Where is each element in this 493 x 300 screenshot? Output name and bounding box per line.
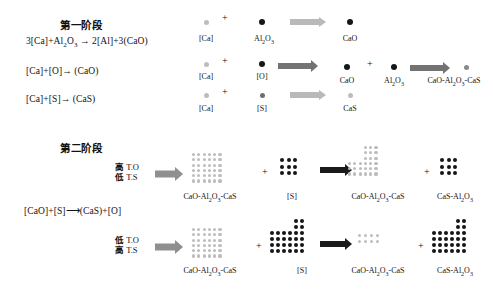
particle-dot: [192, 233, 195, 236]
lbl-a-by-s2: 3: [470, 197, 473, 203]
particle-dot: [208, 239, 211, 242]
particle-ca-row1: [200, 16, 212, 28]
particle-dot: [444, 231, 448, 235]
particle-dot: [280, 158, 284, 162]
particle-dot: [447, 158, 451, 162]
particle-dot: [456, 219, 460, 223]
particle-dot: [374, 151, 377, 154]
particle-dot: [288, 231, 292, 235]
plus-row2-2: +: [367, 58, 373, 69]
particle-dot: [374, 172, 377, 175]
particle-dot: [197, 228, 200, 231]
particle-dot: [208, 179, 211, 182]
particle-dot: [450, 249, 454, 253]
particle-dot: [208, 153, 211, 156]
stage1-equation-2: [Ca]+[O]→ (CaO): [26, 66, 99, 76]
lbl-a-react-tail: -CaS: [221, 192, 237, 201]
cluster-byproduct-row-b: [432, 219, 466, 253]
alumina2-head: Al: [384, 76, 392, 85]
particle-dot: [300, 237, 304, 241]
complex-tail: -CaS: [465, 76, 481, 85]
particle-dot: [203, 158, 206, 161]
label-byproduct-row-b: CaS-Al2O3: [418, 266, 492, 277]
particle-dot: [218, 244, 221, 247]
plus-row-a-2: +: [424, 166, 430, 177]
particle-dot: [447, 171, 451, 175]
particle-dot: [282, 237, 286, 241]
particle-dot: [203, 153, 206, 156]
particle-dot: [359, 162, 362, 165]
particle-dot: [453, 158, 457, 162]
particle-dot: [270, 237, 274, 241]
particle-dot: [197, 164, 200, 167]
label-cao-row1: CaO: [330, 34, 370, 43]
particle-dot: [203, 254, 206, 257]
plus-row-b-1: +: [256, 240, 262, 251]
stage2-title: 第二阶段: [60, 140, 102, 155]
particle-dot: [462, 249, 466, 253]
particle-dot: [300, 249, 304, 253]
particle-dot: [197, 244, 200, 247]
particle-dot: [276, 231, 280, 235]
particle-dot: [447, 165, 451, 169]
particle-dot: [359, 167, 362, 170]
particle-dot: [192, 249, 195, 252]
cluster-reactant-row-b: [192, 228, 222, 258]
particle-dot: [374, 162, 377, 165]
alumina2-sub2: 3: [401, 81, 404, 87]
particle-dot: [300, 219, 304, 223]
particle-dot: [300, 231, 304, 235]
particle-dot: [450, 237, 454, 241]
particle-dot: [293, 158, 297, 162]
cond-a-line2-en: T.S: [126, 172, 137, 182]
particle-dot: [197, 254, 200, 257]
particle-dot: [462, 231, 466, 235]
particle-dot: [197, 249, 200, 252]
particle-dot: [218, 228, 221, 231]
cluster-reactant-row-a: [192, 153, 222, 183]
particle-dot: [192, 164, 195, 167]
particle-complex-row2: [460, 62, 472, 74]
cond-b-line2-cn: 高: [115, 245, 124, 255]
particle-dot: [213, 233, 216, 236]
particle-dot: [444, 249, 448, 253]
alumina-head: Al: [254, 34, 262, 43]
particle-dot: [456, 243, 460, 247]
particle-dot: [288, 243, 292, 247]
particle-dot: [432, 243, 436, 247]
particle-dot: [208, 174, 211, 177]
particle-dot: [364, 234, 367, 237]
particle-dot: [218, 164, 221, 167]
label-sulfur-row-b: [S]: [282, 266, 322, 275]
particle-dot: [203, 174, 206, 177]
particle-dot: [203, 179, 206, 182]
plus-row3-1: +: [222, 86, 228, 97]
particle-dot: [213, 153, 216, 156]
particle-dot: [353, 167, 356, 170]
particle-dot: [218, 153, 221, 156]
cond-b-line1-cn: 低: [115, 235, 124, 245]
particle-dot: [218, 233, 221, 236]
particle-dot: [369, 162, 372, 165]
particle-dot: [364, 172, 367, 175]
lbl-a-prod-head: CaO-Al: [351, 192, 376, 201]
cluster-sulfur-row-a: [280, 158, 297, 175]
particle-dot: [203, 228, 206, 231]
eq1-rhs: 2[Al]+3(CaO): [92, 36, 148, 46]
particle-dot: [213, 169, 216, 172]
particle-dot: [364, 167, 367, 170]
stage2-equation: [CaO]+[S]⟶(CaS)+[O]: [24, 205, 121, 216]
stage1-title: 第一阶段: [60, 17, 102, 32]
particle-dot: [208, 158, 211, 161]
particle-dot: [208, 233, 211, 236]
particle-dot: [208, 244, 211, 247]
particle-dot: [203, 169, 206, 172]
particle-dot: [348, 172, 351, 175]
label-reactant-row-b: CaO-Al2O3-CaS: [160, 266, 260, 277]
particle-dot: [462, 243, 466, 247]
lbl-b-prod-head: CaO-Al: [351, 266, 376, 275]
particle-dot: [213, 254, 216, 257]
particle-dot: [208, 254, 211, 257]
particle-dot: [197, 233, 200, 236]
particle-dot: [370, 240, 373, 243]
